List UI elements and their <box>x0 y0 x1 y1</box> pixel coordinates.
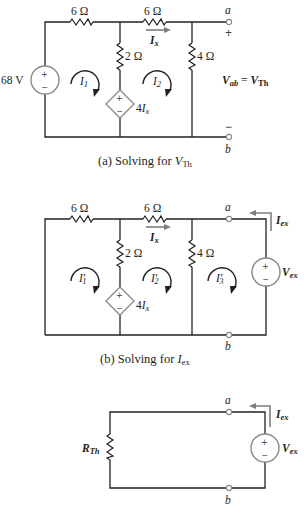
label-i2: I2 <box>152 75 162 89</box>
arrowhead-icon <box>93 89 100 97</box>
caption-b: (b) Solving for Iex <box>100 352 190 367</box>
wire <box>110 412 227 434</box>
resistor-6ohm-left <box>70 19 93 25</box>
terminal-a <box>226 216 231 221</box>
terminal-b <box>226 485 231 490</box>
minus-sign: − <box>263 274 269 285</box>
label-68v: 68 V <box>1 74 24 86</box>
plus-sign: + <box>42 69 48 80</box>
arrowhead-icon <box>165 286 172 294</box>
iex-arrow-icon <box>254 213 271 231</box>
label-2ohm: 2 Ω <box>125 247 142 259</box>
wire <box>45 22 70 66</box>
label-terminal-a: a <box>225 394 231 406</box>
label-i1: I1 <box>79 75 88 89</box>
terminal-a <box>226 19 231 24</box>
label-dependent-source: 4Ix <box>136 299 150 313</box>
label-6ohm-right: 6 Ω <box>144 5 161 17</box>
arrowhead-icon <box>249 210 256 216</box>
label-i3-prime: I′3 <box>215 272 224 286</box>
wire <box>231 219 266 258</box>
minus-sign: − <box>117 106 123 117</box>
minus-sign: − <box>225 120 232 134</box>
terminal-b <box>226 134 231 139</box>
resistor-4ohm <box>189 43 195 70</box>
label-terminal-b: b <box>225 143 231 155</box>
label-4ohm: 4 Ω <box>197 247 214 259</box>
label-terminal-a: a <box>225 4 231 16</box>
label-iex: Iex <box>275 408 289 422</box>
arrowhead-icon <box>230 286 237 294</box>
wire <box>231 462 265 488</box>
arrowhead-icon <box>93 286 100 294</box>
label-2ohm: 2 Ω <box>125 50 142 62</box>
arrowhead-icon <box>164 224 171 230</box>
plus-sign: + <box>117 93 123 104</box>
plus-sign: + <box>117 290 123 301</box>
minus-sign: − <box>117 303 123 314</box>
circuit-figure: 6 Ω 6 Ω 2 Ω 4 Ω + − 68 V + − 4Ix Ix I1 I… <box>0 0 304 516</box>
arrowhead-icon <box>164 27 171 33</box>
arrowhead-icon <box>249 403 256 409</box>
wire <box>231 286 266 335</box>
iex-arrow-icon <box>254 406 270 427</box>
circuit-c: RTh + − Vex Iex a b <box>81 394 298 506</box>
resistor-6ohm-right <box>143 19 166 25</box>
label-vab-equals-vth: Vab = VTh <box>222 74 269 88</box>
label-4ohm: 4 Ω <box>197 50 214 62</box>
plus-sign: + <box>225 26 232 40</box>
label-i2-prime: I′2 <box>150 272 159 286</box>
label-6ohm-left: 6 Ω <box>71 202 88 214</box>
label-6ohm-right: 6 Ω <box>144 202 161 214</box>
circuit-a: 6 Ω 6 Ω 2 Ω 4 Ω + − 68 V + − 4Ix Ix I1 I… <box>1 4 269 169</box>
arrowhead-icon <box>165 89 172 97</box>
circuit-b: 6 Ω 6 Ω 2 Ω 4 Ω + − 4Ix Ix I′1 I′2 I′3 +… <box>45 201 298 367</box>
wire <box>110 460 227 488</box>
plus-sign: + <box>262 437 268 448</box>
wire <box>45 219 70 335</box>
wire <box>45 94 227 137</box>
resistor-2ohm <box>117 43 123 70</box>
resistor-rth <box>107 434 113 460</box>
caption-a: (a) Solving for VTh <box>98 154 193 169</box>
resistor-2ohm <box>117 240 123 267</box>
label-vex: Vex <box>282 442 298 456</box>
label-vex: Vex <box>282 266 298 280</box>
resistor-6ohm-right <box>143 216 166 222</box>
resistor-6ohm-left <box>70 216 93 222</box>
label-terminal-b: b <box>225 494 231 506</box>
label-ix: Ix <box>149 34 159 48</box>
terminal-a <box>226 409 231 414</box>
label-rth: RTh <box>81 442 100 456</box>
label-dependent-source: 4Ix <box>136 102 150 116</box>
label-i1-prime: I′1 <box>78 272 87 286</box>
wire <box>231 412 265 434</box>
terminal-b <box>226 332 231 337</box>
resistor-4ohm <box>189 240 195 267</box>
minus-sign: − <box>42 82 48 93</box>
minus-sign: − <box>262 450 268 461</box>
label-6ohm-left: 6 Ω <box>71 5 88 17</box>
label-terminal-a: a <box>225 201 231 213</box>
label-ix: Ix <box>149 231 159 245</box>
label-iex: Iex <box>275 214 289 228</box>
label-terminal-b: b <box>225 340 231 352</box>
plus-sign: + <box>263 261 269 272</box>
